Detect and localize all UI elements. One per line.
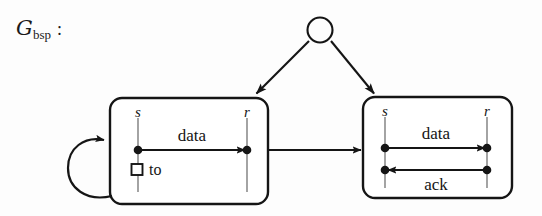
left-box-lifeline-s-label: s — [135, 104, 141, 120]
branch-arrow-right[interactable] — [331, 41, 374, 94]
root-circle-node[interactable] — [308, 18, 333, 43]
timeout-square-icon — [132, 164, 143, 175]
right-box-lifeline-s-label: s — [382, 103, 388, 119]
right-box-lifeline-r-label: r — [484, 103, 490, 119]
left-box-self-loop-arrow[interactable] — [68, 139, 112, 197]
right-box-message-data-send-dot — [381, 144, 390, 153]
right-box-message-data-recv-dot — [483, 144, 492, 153]
branch-arrow-left[interactable] — [257, 41, 310, 94]
right-box-message-ack-label: ack — [424, 175, 448, 194]
figure-canvas: Gbsp: s r — [0, 0, 542, 216]
graph-symbol: G — [16, 16, 33, 40]
timeout-marker-label: to — [149, 161, 161, 178]
right-box-message-ack-recv-dot — [381, 166, 390, 175]
left-box-message-data-recv-dot — [243, 146, 252, 155]
left-box-lifeline-r-label: r — [244, 104, 250, 120]
left-scenario-box[interactable]: s r data to — [110, 98, 268, 204]
left-box-message-data-label: data — [178, 126, 207, 145]
right-scenario-box[interactable]: s r data ack — [363, 97, 512, 198]
diagram-svg: s r data to s r data — [0, 0, 542, 216]
left-box-message-data-send-dot — [134, 146, 143, 155]
graph-name-label: Gbsp: — [16, 16, 62, 43]
graph-colon: : — [51, 19, 62, 39]
right-box-message-ack-send-dot — [483, 166, 492, 175]
right-box-message-data-label: data — [422, 124, 451, 143]
graph-subscript: bsp — [33, 27, 51, 42]
